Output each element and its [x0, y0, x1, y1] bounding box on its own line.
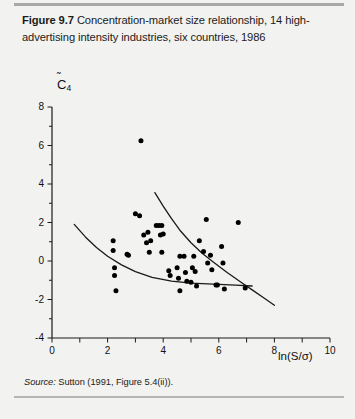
scatter-point — [189, 280, 194, 285]
y-tick-label: 8 — [18, 101, 44, 112]
scatter-point — [111, 238, 116, 243]
figure-container: Figure 9.7 Concentration-market size rel… — [0, 0, 355, 419]
scatter-point — [222, 286, 227, 291]
scatter-point — [191, 254, 196, 259]
scatter-point — [147, 250, 152, 255]
scatter-point — [159, 223, 164, 228]
y-tick-label: 0 — [18, 255, 44, 266]
scatter-point — [208, 253, 213, 258]
y-axis-label: ˜C4 — [57, 78, 71, 95]
scatter-point — [126, 253, 131, 258]
x-tick-label: 2 — [94, 345, 122, 356]
scatter-point — [161, 232, 166, 237]
scatter-point — [197, 238, 202, 243]
scatter-point — [190, 265, 195, 270]
source-citation: Sutton (1991, Figure 5.4(ii)). — [56, 377, 173, 387]
y-tick-label: -2 — [18, 294, 44, 305]
scatter-point — [205, 260, 210, 265]
scatter-point — [148, 238, 153, 243]
scatter-point — [177, 254, 182, 259]
scatter-point — [209, 267, 214, 272]
source-word: Source: — [24, 377, 56, 387]
scatter-point — [113, 288, 118, 293]
source-note: Source: Sutton (1991, Figure 5.4(ii)). — [24, 377, 173, 387]
x-tick-label: 0 — [38, 345, 66, 356]
scatter-point — [168, 273, 173, 278]
scatter-point — [204, 217, 209, 222]
scatter-point — [215, 283, 220, 288]
x-tick-label: 6 — [205, 345, 233, 356]
scatter-point — [137, 213, 142, 218]
scatter-plot: ˜C4 ln(S/σ) 0246810-4-202468 — [0, 0, 355, 419]
steep-bound-curve — [155, 193, 275, 306]
scatter-point — [194, 284, 199, 289]
scatter-point — [112, 265, 117, 270]
y-tick-label: 4 — [18, 178, 44, 189]
x-tick-label: 8 — [260, 345, 288, 356]
scatter-point — [177, 288, 182, 293]
scatter-point — [201, 249, 206, 254]
scatter-point — [111, 248, 116, 253]
scatter-point — [138, 138, 143, 143]
scatter-point — [243, 285, 248, 290]
x-tick-label: 4 — [149, 345, 177, 356]
scatter-point — [112, 273, 117, 278]
scatter-point — [184, 279, 189, 284]
bottom-divider — [14, 396, 344, 398]
scatter-point — [176, 276, 181, 281]
scatter-point — [175, 265, 180, 270]
scatter-point — [166, 268, 171, 273]
y-tick-label: -4 — [18, 332, 44, 343]
x-tick-label: 10 — [316, 345, 344, 356]
scatter-point — [220, 260, 225, 265]
axes — [48, 107, 331, 343]
scatter-point — [145, 230, 150, 235]
y-tick-label: 6 — [18, 140, 44, 151]
scatter-point — [159, 250, 164, 255]
scatter-point — [183, 270, 188, 275]
scatter-point — [141, 233, 146, 238]
scatter-point — [236, 220, 241, 225]
y-tick-label: 2 — [18, 217, 44, 228]
scatter-point — [219, 244, 224, 249]
